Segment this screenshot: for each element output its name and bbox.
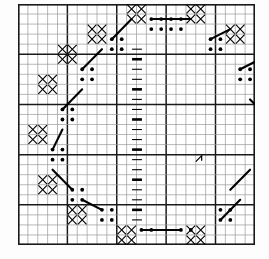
cross-stitch-cell: [196, 15, 205, 24]
connector-stitch: [250, 99, 255, 119]
french-knot-dot: [238, 77, 242, 81]
cross-stitch-cell: [68, 205, 77, 214]
french-knot-dot: [110, 208, 114, 212]
french-knot-dot: [120, 37, 124, 41]
cross-stitch-cell: [196, 5, 205, 14]
french-knot-dot: [61, 148, 65, 152]
cross-stitch-cell: [48, 175, 57, 184]
french-knot-dot: [120, 47, 124, 51]
cross-stitch-cell: [117, 226, 126, 235]
pattern-grid-surface[interactable]: [18, 4, 255, 245]
french-knot-dot: [70, 198, 74, 202]
connector-stitch: [62, 89, 82, 109]
cross-stitch-cell: [196, 236, 205, 245]
french-knot-dot: [110, 47, 114, 51]
cross-stitch-cell: [186, 236, 195, 245]
french-knot-dot: [228, 218, 232, 222]
french-knot-dot: [80, 77, 84, 81]
french-knot-dot: [189, 228, 193, 232]
pattern-motif: [18, 4, 255, 245]
cross-stitch-cell: [38, 175, 47, 184]
french-knot-dot: [219, 47, 223, 51]
french-knot-dot: [70, 108, 74, 112]
french-knot-dot: [61, 118, 65, 122]
french-knot-dot: [90, 67, 94, 71]
french-knot-dot: [179, 27, 183, 31]
cross-stitch-cell: [98, 35, 107, 44]
connector-stitch: [240, 59, 255, 69]
cross-stitch-cell: [48, 85, 57, 94]
cross-stitch-cell: [38, 85, 47, 94]
cross-stitch-cell: [98, 25, 107, 34]
cross-stitch-cell: [28, 125, 37, 134]
connector-stitch: [220, 200, 240, 220]
french-knot-dot: [219, 208, 223, 212]
french-knot-dot: [100, 218, 104, 222]
cross-stitch-cell: [226, 35, 235, 44]
cross-stitch-cell: [58, 45, 67, 54]
french-knot-dot: [169, 27, 173, 31]
cross-stitch-cell: [48, 185, 57, 194]
cross-stitch-cell: [137, 15, 146, 24]
cross-stitch-cell: [38, 75, 47, 84]
cross-stitch-cell: [127, 226, 136, 235]
french-knot-dot: [110, 218, 114, 222]
french-knot-dot: [149, 27, 153, 31]
connector-stitch: [230, 170, 250, 190]
cross-stitch-cell: [68, 55, 77, 64]
cross-stitch-cell: [58, 55, 67, 64]
french-knot-dot: [70, 118, 74, 122]
cross-stitch-cell: [78, 205, 87, 214]
cross-stitch-cell: [68, 45, 77, 54]
french-knot-dot: [159, 27, 163, 31]
cross-stitch-cell: [186, 5, 195, 14]
french-knot-dot: [248, 77, 252, 81]
pattern-chart-root: [0, 0, 269, 259]
french-knot-dot: [80, 188, 84, 192]
cross-stitch-cell: [88, 35, 97, 44]
french-knot-dot: [248, 67, 252, 71]
cross-stitch-cell: [236, 35, 245, 44]
connector-stitch: [82, 200, 102, 210]
cross-stitch-cell: [28, 135, 37, 144]
cross-stitch-cell: [117, 236, 126, 245]
connector-stitch: [112, 19, 132, 39]
cross-stitch-cell: [137, 5, 146, 14]
cross-stitch-cell: [68, 215, 77, 224]
cross-stitch-cell: [78, 215, 87, 224]
connector-stitch: [53, 130, 63, 150]
cross-stitch-cell: [88, 25, 97, 34]
cross-stitch-cell: [236, 25, 245, 34]
cross-stitch-cell: [38, 135, 47, 144]
cross-stitch-cell: [196, 226, 205, 235]
cross-stitch-cell: [48, 75, 57, 84]
french-knot-dot: [90, 77, 94, 81]
french-knot-dot: [51, 158, 55, 162]
french-knot-dot: [209, 47, 213, 51]
marker-arrow-icon: [196, 156, 202, 162]
french-knot-dot: [219, 37, 223, 41]
cross-stitch-cell: [127, 236, 136, 245]
connector-stitch: [82, 49, 102, 69]
cross-stitch-cell: [38, 125, 47, 134]
french-knot-dot: [61, 158, 65, 162]
cross-stitch-cell: [38, 185, 47, 194]
cross-stitch-cell: [127, 5, 136, 14]
